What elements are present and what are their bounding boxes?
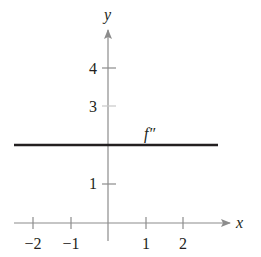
x-tick-label: 1 — [142, 235, 150, 252]
x-axis-label: x — [235, 214, 243, 231]
x-tick-label: −1 — [62, 235, 79, 252]
y-tick-label: 3 — [89, 98, 97, 115]
x-tick-label: 2 — [179, 235, 187, 252]
y-tick-label: 1 — [89, 175, 97, 192]
y-ticks — [102, 68, 116, 184]
y-axis-label: y — [102, 6, 112, 24]
x-tick-label: −2 — [24, 235, 41, 252]
graph-f-double-prime: y x f″ −2 −1 1 2 1 3 4 — [0, 0, 261, 257]
y-tick-label: 4 — [89, 60, 97, 77]
curve-label: f″ — [144, 125, 155, 143]
